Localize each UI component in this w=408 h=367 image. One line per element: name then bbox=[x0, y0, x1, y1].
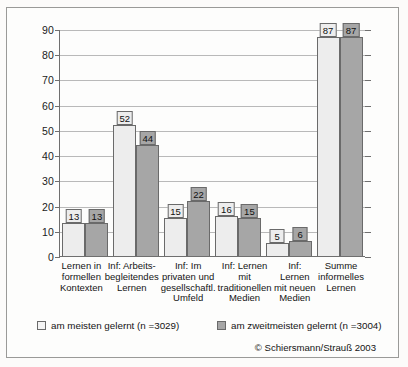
bar-value-label: 5 bbox=[270, 229, 285, 243]
x-axis-label: Inf: LernenmittraditionellenMedien bbox=[217, 261, 273, 304]
y-axis-tick-right bbox=[365, 181, 371, 182]
y-axis-tick-label: 0 bbox=[48, 251, 54, 263]
y-axis-tick-right bbox=[365, 55, 371, 56]
bar[interactable]: 87 bbox=[317, 37, 340, 256]
bar-value-label: 87 bbox=[320, 23, 337, 37]
y-axis-tick-right bbox=[365, 257, 371, 258]
bar-group: 56 bbox=[263, 30, 314, 256]
y-axis-tick-label: 80 bbox=[42, 49, 54, 61]
y-axis-tick bbox=[55, 257, 60, 258]
bar-value-label: 44 bbox=[139, 131, 156, 145]
bar[interactable]: 5 bbox=[266, 243, 289, 256]
bar[interactable]: 44 bbox=[136, 145, 159, 256]
bar[interactable]: 16 bbox=[215, 216, 238, 256]
copyright-note: © Schiersmann/Strauß 2003 bbox=[255, 342, 376, 353]
y-axis-tick-label: 50 bbox=[42, 125, 54, 137]
y-axis-tick-right bbox=[365, 232, 371, 233]
bar-value-label: 13 bbox=[89, 209, 106, 223]
y-axis-tick-label: 70 bbox=[42, 74, 54, 86]
bar-value-label: 15 bbox=[241, 204, 258, 218]
bar-group: 1522 bbox=[162, 30, 213, 256]
legend-item-am-meisten: am meisten gelernt (n =3029) bbox=[37, 320, 217, 331]
bar-value-label: 87 bbox=[343, 23, 360, 37]
x-axis-label: Inf: Arbeits-begleitendesLernen bbox=[104, 261, 160, 304]
bar[interactable]: 13 bbox=[62, 223, 85, 256]
bar[interactable]: 22 bbox=[187, 201, 210, 256]
chart-figure: 0102030405060708090 13135244152216155687… bbox=[0, 0, 408, 367]
bar-value-label: 15 bbox=[167, 204, 184, 218]
legend-swatch-dark bbox=[217, 321, 226, 330]
y-axis-tick-label: 40 bbox=[42, 150, 54, 162]
bar-group: 8787 bbox=[314, 30, 365, 256]
bar-group: 5244 bbox=[111, 30, 162, 256]
legend-label-am-meisten: am meisten gelernt (n =3029) bbox=[51, 320, 179, 331]
x-axis-label: SummeinformellesLernen bbox=[317, 261, 365, 304]
y-axis-tick-label: 20 bbox=[42, 201, 54, 213]
bar-value-label: 22 bbox=[190, 187, 207, 201]
bar-value-label: 13 bbox=[66, 209, 83, 223]
y-axis-tick-label: 30 bbox=[42, 175, 54, 187]
x-axis-label: Inf: Lernenmit neuenMedien bbox=[272, 261, 317, 304]
x-axis-labels: Lernen informellenKontextenInf: Arbeits-… bbox=[59, 261, 365, 304]
bar[interactable]: 6 bbox=[289, 241, 312, 256]
bar[interactable]: 52 bbox=[113, 125, 136, 256]
bar-group: 1313 bbox=[60, 30, 111, 256]
bar[interactable]: 87 bbox=[340, 37, 363, 256]
y-axis-tick-right bbox=[365, 156, 371, 157]
legend-swatch-light bbox=[37, 321, 46, 330]
bar-groups: 1313524415221615568787 bbox=[60, 30, 365, 256]
y-axis-tick-right bbox=[365, 30, 371, 31]
bar-group: 1615 bbox=[212, 30, 263, 256]
y-axis-tick-right bbox=[365, 106, 371, 107]
chart-legend: am meisten gelernt (n =3029) am zweitmei… bbox=[37, 320, 387, 331]
bar[interactable]: 15 bbox=[238, 218, 261, 256]
bar-value-label: 52 bbox=[116, 111, 133, 125]
x-axis-label: Lernen informellenKontexten bbox=[59, 261, 104, 304]
y-axis-tick-right bbox=[365, 80, 371, 81]
bar-value-label: 6 bbox=[293, 227, 308, 241]
figure-frame: 0102030405060708090 13135244152216155687… bbox=[6, 7, 399, 358]
plot-area: 0102030405060708090 13135244152216155687… bbox=[59, 30, 365, 257]
legend-item-am-zweitmeisten: am zweitmeisten gelernt (n =3004) bbox=[217, 320, 382, 331]
y-axis-tick-right bbox=[365, 131, 371, 132]
legend-label-am-zweitmeisten: am zweitmeisten gelernt (n =3004) bbox=[231, 320, 382, 331]
bar[interactable]: 15 bbox=[164, 218, 187, 256]
bar[interactable]: 13 bbox=[85, 223, 108, 256]
y-axis-tick-label: 90 bbox=[42, 24, 54, 36]
y-axis-tick-label: 60 bbox=[42, 100, 54, 112]
bar-value-label: 16 bbox=[218, 202, 235, 216]
y-axis-tick-label: 10 bbox=[42, 226, 54, 238]
y-axis-tick-right bbox=[365, 207, 371, 208]
x-axis-label: Inf: Imprivaten undgesellschaftl.Umfeld bbox=[160, 261, 217, 304]
